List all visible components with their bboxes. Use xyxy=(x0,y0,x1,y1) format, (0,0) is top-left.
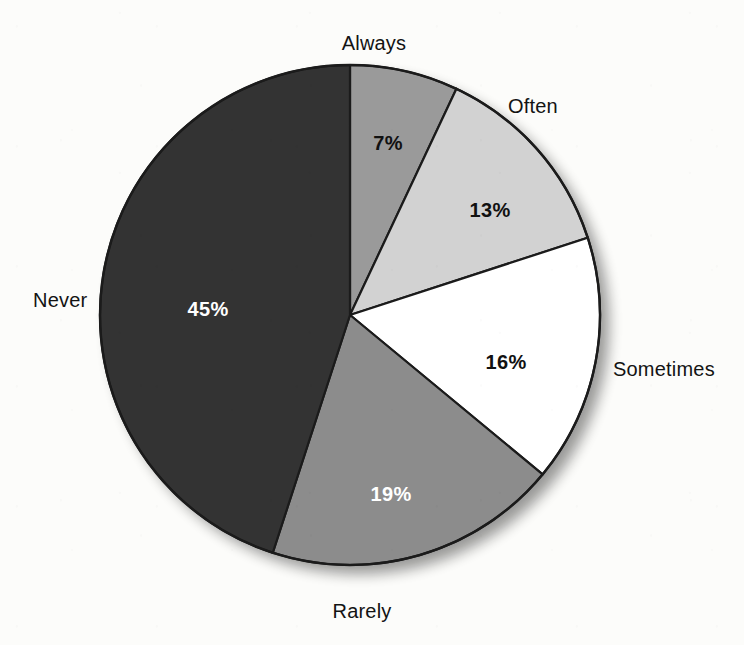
pie-chart: 7% 13% 16% 19% 45% Always Often Sometime… xyxy=(0,0,744,645)
category-label-sometimes: Sometimes xyxy=(613,358,715,381)
category-label-never: Never xyxy=(33,289,87,312)
chart-page: 7% 13% 16% 19% 45% Always Often Sometime… xyxy=(0,0,744,645)
pie-chart-svg xyxy=(0,0,744,645)
category-label-rarely: Rarely xyxy=(333,600,392,623)
slice-value-sometimes: 16% xyxy=(486,351,527,374)
category-label-often: Often xyxy=(508,95,558,118)
slice-value-rarely: 19% xyxy=(371,483,412,506)
category-label-always: Always xyxy=(342,32,407,55)
slice-value-always: 7% xyxy=(373,132,403,155)
slice-value-never: 45% xyxy=(188,298,229,321)
slice-value-often: 13% xyxy=(470,199,511,222)
